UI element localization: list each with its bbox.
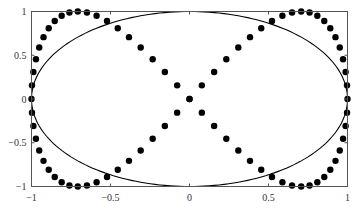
data-point xyxy=(174,109,180,115)
data-point xyxy=(162,123,168,129)
data-point xyxy=(314,179,320,185)
data-point xyxy=(199,109,205,115)
data-point xyxy=(52,174,58,180)
data-point xyxy=(321,18,327,24)
data-point xyxy=(40,34,46,40)
data-point xyxy=(332,158,338,164)
data-point xyxy=(33,136,39,142)
y-tick-label: 0.5 xyxy=(14,50,27,61)
data-point xyxy=(199,82,205,88)
data-point xyxy=(66,182,72,188)
data-point xyxy=(46,167,52,173)
data-point xyxy=(33,56,39,62)
data-point xyxy=(137,44,143,50)
data-point xyxy=(289,182,295,188)
data-point xyxy=(52,18,58,24)
data-point xyxy=(327,167,333,173)
data-point xyxy=(258,167,264,173)
data-point xyxy=(126,34,132,40)
data-point xyxy=(115,167,121,173)
data-point xyxy=(211,123,217,129)
y-axis-tick-labels: −1−0.500.51 xyxy=(8,6,26,192)
data-point xyxy=(58,179,64,185)
y-tick-label: 0 xyxy=(22,94,27,105)
data-point xyxy=(58,13,64,19)
x-tick-label: 1 xyxy=(345,192,350,203)
data-point xyxy=(36,44,42,50)
data-point xyxy=(247,158,253,164)
data-point xyxy=(332,34,338,40)
data-point xyxy=(149,136,155,142)
data-point xyxy=(211,69,217,75)
data-point xyxy=(321,174,327,180)
data-point xyxy=(269,18,275,24)
data-point xyxy=(337,147,343,153)
data-point xyxy=(84,9,90,15)
data-point xyxy=(36,147,42,153)
data-point xyxy=(223,56,229,62)
data-point xyxy=(247,34,253,40)
data-point xyxy=(279,179,285,185)
x-tick-label: 0 xyxy=(187,192,192,203)
x-tick-label: −1 xyxy=(26,192,37,203)
x-axis-tick-labels: −1−0.500.51 xyxy=(26,192,350,203)
data-point xyxy=(46,25,52,31)
data-point xyxy=(186,96,192,102)
data-point xyxy=(223,136,229,142)
data-point xyxy=(235,44,241,50)
data-point xyxy=(93,13,99,19)
data-point xyxy=(235,147,241,153)
x-tick-label: −0.5 xyxy=(101,192,119,203)
data-point xyxy=(314,13,320,19)
data-point xyxy=(279,13,285,19)
data-point xyxy=(340,136,346,142)
data-point xyxy=(337,44,343,50)
data-point xyxy=(137,147,143,153)
data-point xyxy=(289,9,295,15)
data-point xyxy=(104,174,110,180)
data-point xyxy=(93,179,99,185)
data-point xyxy=(340,56,346,62)
data-point xyxy=(66,9,72,15)
data-point xyxy=(258,25,264,31)
y-tick-label: −1 xyxy=(16,181,27,192)
data-point xyxy=(162,69,168,75)
data-point xyxy=(269,174,275,180)
data-point xyxy=(327,25,333,31)
data-point xyxy=(104,18,110,24)
data-point xyxy=(84,182,90,188)
plot-area xyxy=(28,8,350,189)
data-point xyxy=(174,82,180,88)
data-point xyxy=(306,182,312,188)
data-point xyxy=(306,9,312,15)
y-tick-label: 1 xyxy=(22,6,27,17)
data-point xyxy=(115,25,121,31)
y-tick-label: −0.5 xyxy=(8,137,26,148)
data-point xyxy=(149,56,155,62)
x-tick-label: 0.5 xyxy=(262,192,275,203)
data-point xyxy=(40,158,46,164)
chart: −1−0.500.51 −1−0.500.51 xyxy=(0,0,356,212)
data-point xyxy=(126,158,132,164)
